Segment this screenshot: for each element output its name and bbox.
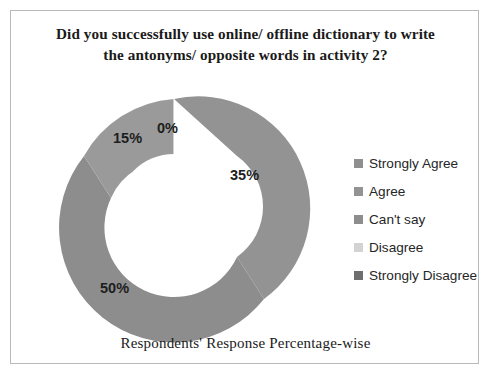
legend-item-disagree[interactable]: Disagree [354,233,484,261]
legend-swatch-icon [354,187,363,196]
legend-item-agree[interactable]: Agree [354,177,484,205]
legend-item-strongly-disagree[interactable]: Strongly Disagree [354,261,484,289]
slice-label-strongly-agree: 0% [157,120,178,136]
legend-label: Agree [369,184,405,199]
chart-legend: Strongly Agree Agree Can't say Disagree … [354,149,484,289]
slice-label-cant-say: 50% [100,280,129,296]
legend-label: Can't say [369,212,425,227]
legend-item-strongly-agree[interactable]: Strongly Agree [354,149,484,177]
legend-swatch-icon [354,215,363,224]
slice-label-disagree: 15% [113,130,142,146]
legend-label: Strongly Agree [369,156,458,171]
legend-label: Disagree [369,240,423,255]
chart-frame: Did you successfully use online/ offline… [10,10,479,364]
chart-caption: Respondents' Response Percentage-wise [25,335,466,352]
doughnut-hole [117,154,231,268]
legend-item-cant-say[interactable]: Can't say [354,205,484,233]
slice-label-agree: 35% [230,167,259,183]
legend-swatch-icon [354,243,363,252]
legend-label: Strongly Disagree [369,268,477,283]
legend-swatch-icon [354,159,363,168]
legend-swatch-icon [354,271,363,280]
